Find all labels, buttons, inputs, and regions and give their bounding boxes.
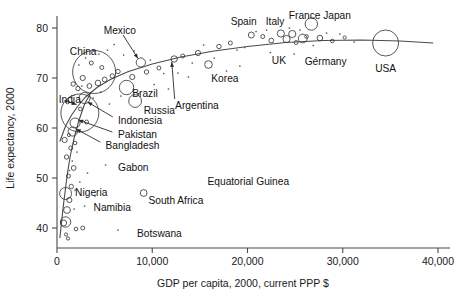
data-point-bubble <box>64 233 67 236</box>
trend-line <box>60 40 433 142</box>
data-point-bubble <box>102 77 107 82</box>
annotation-label-korea: Korea <box>211 73 239 84</box>
data-point-dot <box>239 65 241 67</box>
data-point-dot <box>312 45 314 47</box>
data-point-bubble-korea <box>205 61 213 69</box>
annotation-label-bangladesh: Bangladesh <box>106 140 160 151</box>
data-point-dot <box>69 170 71 172</box>
x-tick-label: 30,000 <box>327 255 359 267</box>
data-point-bubble-south-africa <box>140 190 147 197</box>
y-axis-title: Life expectancy, 2000 <box>4 87 16 189</box>
data-point-dot <box>84 205 86 207</box>
data-point-dot <box>255 31 257 33</box>
data-point-bubble <box>217 44 221 48</box>
annotation-label-mexico: Mexico <box>104 25 137 36</box>
data-point-bubble <box>130 74 135 79</box>
data-point-dot <box>123 54 125 56</box>
data-point-dot <box>153 84 155 86</box>
data-point-dot <box>188 76 190 78</box>
data-point-dot <box>98 53 100 55</box>
data-point-dot <box>87 172 89 174</box>
data-point-dot <box>78 64 80 66</box>
data-point-dot <box>73 208 75 210</box>
data-point-bubble <box>81 226 85 230</box>
data-point-dot <box>113 44 115 46</box>
data-point-bubble <box>95 80 101 86</box>
data-point-bubble <box>71 82 75 86</box>
scatter-chart-figure: 4050607080010,00020,00030,00040,000GDP p… <box>0 0 457 294</box>
data-point-bubble <box>89 61 93 65</box>
data-point-dot <box>244 47 246 49</box>
data-point-dot <box>163 73 165 75</box>
y-tick-label: 40 <box>36 222 48 234</box>
y-tick-label: 80 <box>36 22 48 34</box>
data-point-dot <box>85 57 87 59</box>
data-point-dot <box>203 44 205 46</box>
data-point-bubble <box>73 141 77 145</box>
annotation-label-spain: Spain <box>231 16 257 27</box>
data-point-bubble <box>330 39 334 43</box>
data-point-dot <box>109 103 111 105</box>
x-tick-label: 0 <box>54 255 60 267</box>
data-point-dot <box>76 151 78 153</box>
data-point-bubble <box>64 155 68 159</box>
data-point-bubble <box>269 38 274 43</box>
data-point-dot <box>339 33 341 35</box>
data-point-bubble <box>343 36 346 39</box>
data-point-dot <box>120 95 122 97</box>
data-point-bubble-france <box>289 30 296 37</box>
data-point-dot <box>168 88 170 90</box>
annotation-label-south-africa: South Africa <box>148 195 203 206</box>
data-point-bubble <box>74 227 78 231</box>
data-point-bubble <box>157 66 161 70</box>
data-point-dot <box>71 160 73 162</box>
data-point-dot <box>270 52 272 54</box>
annotation-label-equatorial-guinea: Equatorial Guinea <box>208 176 290 187</box>
annotation-label-italy: Italy <box>266 16 286 27</box>
data-point-dot <box>213 57 215 59</box>
data-point-bubble <box>195 50 200 55</box>
annotation-label-nigeria: Nigeria <box>75 187 108 198</box>
data-point-dot <box>353 41 355 43</box>
data-point-bubble <box>87 84 92 89</box>
annotation-label-india: India <box>59 94 81 105</box>
data-point-dot <box>289 27 291 29</box>
data-point-bubble-usa <box>373 30 399 56</box>
plot-area: 4050607080010,00020,00030,00040,000GDP p… <box>0 0 457 294</box>
data-point-bubble <box>64 207 71 214</box>
data-point-dot <box>117 229 119 231</box>
data-point-dot <box>299 29 301 31</box>
annotation-arrow-head <box>134 53 138 58</box>
data-point-bubble <box>110 74 114 78</box>
annotation-label-botswana: Botswana <box>137 228 182 239</box>
annotation-leader-line <box>78 120 112 132</box>
data-point-dot <box>236 49 238 51</box>
data-point-bubble <box>144 70 148 74</box>
annotation-label-namibia: Namibia <box>94 202 132 213</box>
annotation-label-argentina: Argentina <box>175 100 219 111</box>
annotation-arrow-head <box>78 120 83 124</box>
x-tick-label: 20,000 <box>231 255 263 267</box>
data-point-bubble <box>317 35 323 41</box>
annotation-label-pakistan: Pakistan <box>118 129 157 140</box>
data-point-bubble <box>66 237 69 240</box>
data-point-bubble-china <box>73 51 116 94</box>
annotation-arrow-head <box>87 102 92 106</box>
annotation-label-indonesia: Indonesia <box>118 115 163 126</box>
data-point-dot <box>79 181 81 183</box>
data-point-bubble <box>76 86 80 90</box>
y-tick-label: 60 <box>36 122 48 134</box>
data-point-dot <box>81 85 83 87</box>
data-point-dot <box>149 59 151 61</box>
x-axis-title: GDP per capita, 2000, current PPP $ <box>157 277 329 289</box>
annotation-label-uk: UK <box>272 55 286 66</box>
trend-line-lower-segment <box>60 92 91 238</box>
annotation-label-brazil: Brazil <box>132 88 157 99</box>
data-point-dot <box>293 53 295 55</box>
data-point-dot <box>191 62 193 64</box>
data-point-bubble-uk <box>283 35 290 42</box>
data-point-dot <box>105 164 107 166</box>
annotation-label-france: France <box>289 10 321 21</box>
annotation-label-china: China <box>70 46 97 57</box>
data-point-bubble <box>228 41 232 45</box>
